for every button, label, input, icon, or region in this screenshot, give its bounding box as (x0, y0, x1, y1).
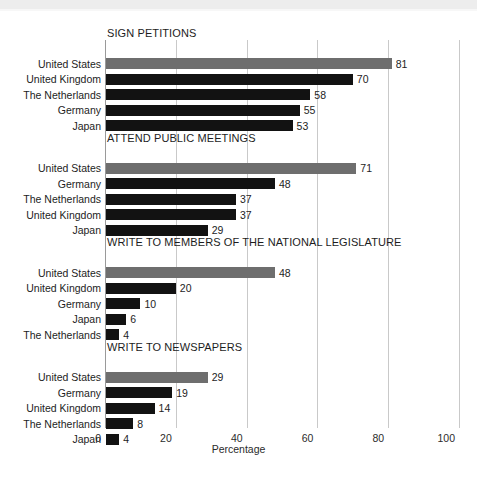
bar (106, 403, 155, 414)
bar (106, 267, 275, 278)
bar-value-label: 14 (159, 403, 171, 414)
category-label: The Netherlands (0, 90, 101, 101)
gridline-100 (459, 40, 460, 428)
category-label: United Kingdom (0, 210, 101, 221)
bar (106, 314, 126, 325)
category-label: Germany (0, 105, 101, 116)
bar-value-label: 6 (130, 314, 136, 325)
bar (106, 225, 208, 236)
category-label: United Kingdom (0, 283, 101, 294)
category-label: United Kingdom (0, 74, 101, 85)
bar (106, 178, 275, 189)
category-label: Japan (0, 121, 101, 132)
gridline-80 (388, 40, 389, 428)
bar-value-label: 29 (212, 225, 224, 236)
bar-value-label: 55 (304, 105, 316, 116)
category-label: United States (0, 59, 101, 70)
bar (106, 387, 172, 398)
bar (106, 209, 236, 220)
category-label: United States (0, 163, 101, 174)
category-label: Germany (0, 179, 101, 190)
bar-value-label: 20 (180, 283, 192, 294)
bar (106, 120, 293, 131)
group-heading: WRITE TO MEMBERS OF THE NATIONAL LEGISLA… (107, 236, 402, 248)
bar (106, 163, 356, 174)
bar-value-label: 37 (240, 210, 252, 221)
bar-value-label: 10 (144, 299, 156, 310)
bar-value-label: 53 (297, 121, 309, 132)
bar-value-label: 70 (357, 74, 369, 85)
category-label: The Netherlands (0, 194, 101, 205)
category-label: United Kingdom (0, 403, 101, 414)
category-label: The Netherlands (0, 330, 101, 341)
bar-value-label: 48 (279, 268, 291, 279)
bar (106, 418, 133, 429)
bar (106, 283, 176, 294)
bar (106, 89, 310, 100)
chart-page: 0204060801008170585553714837372948201064… (0, 0, 477, 477)
category-label: Japan (0, 314, 101, 325)
group-heading: WRITE TO NEWSPAPERS (107, 341, 242, 353)
page-top-band-secondary (0, 9, 477, 11)
category-label: Japan (0, 434, 101, 445)
category-label: Germany (0, 299, 101, 310)
bar-value-label: 48 (279, 179, 291, 190)
bar-value-label: 29 (212, 372, 224, 383)
bar-value-label: 19 (176, 388, 188, 399)
bar (106, 329, 119, 340)
bar (106, 105, 300, 116)
bar (106, 58, 392, 69)
bar-value-label: 37 (240, 194, 252, 205)
bar (106, 74, 353, 85)
group-heading: SIGN PETITIONS (107, 27, 196, 39)
bar (106, 194, 236, 205)
category-label: Germany (0, 388, 101, 399)
bar (106, 372, 208, 383)
group-heading: ATTEND PUBLIC MEETINGS (107, 132, 256, 144)
plot-area: 0204060801008170585553714837372948201064… (105, 40, 459, 428)
bar-value-label: 58 (314, 90, 326, 101)
category-label: Japan (0, 225, 101, 236)
page-top-band (0, 0, 477, 9)
category-label: United States (0, 268, 101, 279)
category-label: The Netherlands (0, 419, 101, 430)
category-label: United States (0, 372, 101, 383)
bar-value-label: 71 (360, 163, 372, 174)
bar-value-label: 81 (396, 59, 408, 70)
bar-value-label: 4 (123, 330, 129, 341)
bar (106, 298, 140, 309)
bar-value-label: 8 (137, 419, 143, 430)
